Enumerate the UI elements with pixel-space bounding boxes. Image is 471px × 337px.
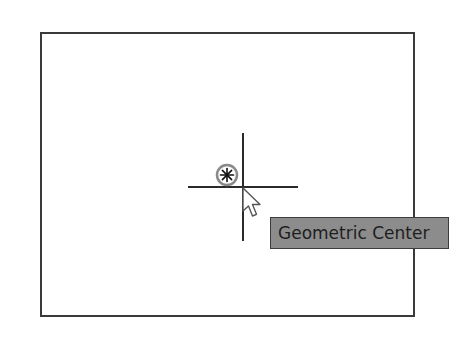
snap-tooltip: Geometric Center: [270, 217, 449, 249]
arrow-cursor-icon: [242, 187, 266, 221]
tooltip-label: Geometric Center: [278, 223, 429, 243]
geometric-center-snap-icon[interactable]: [215, 163, 239, 187]
drawing-canvas[interactable]: Geometric Center: [0, 0, 471, 337]
